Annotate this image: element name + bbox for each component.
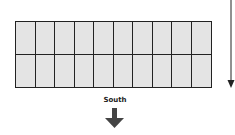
- direction-label: South: [97, 96, 133, 104]
- slope-arrow-icon: [228, 0, 235, 88]
- arrows-layer: [0, 0, 235, 135]
- south-arrow-icon: [105, 108, 124, 128]
